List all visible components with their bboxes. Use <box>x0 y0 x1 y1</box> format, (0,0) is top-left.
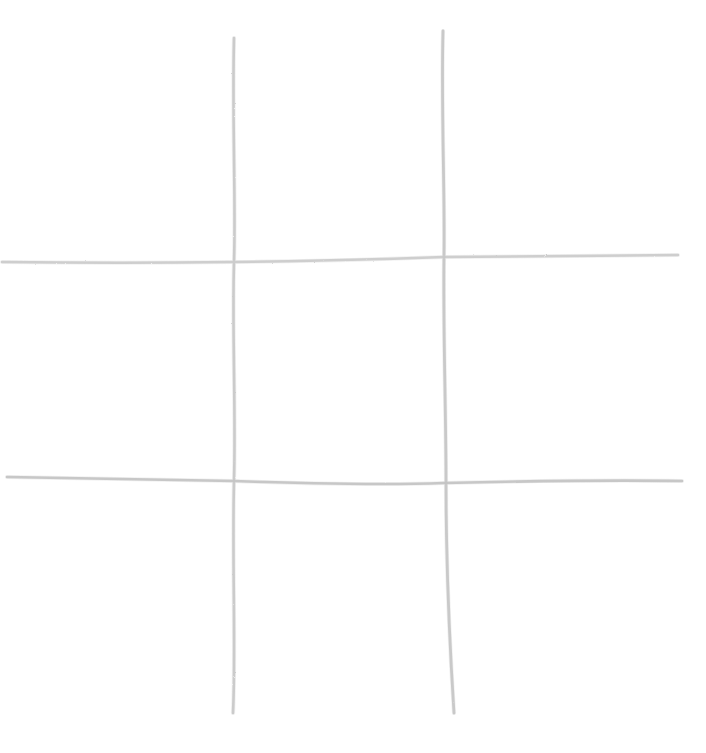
cell-middle-left[interactable] <box>0 260 234 482</box>
cell-top-center[interactable] <box>234 0 444 260</box>
cell-bottom-center[interactable] <box>234 482 444 753</box>
tic-tac-toe-board[interactable] <box>0 0 706 753</box>
cell-middle-right[interactable] <box>444 260 706 482</box>
cell-top-right[interactable] <box>444 0 706 260</box>
cell-bottom-left[interactable] <box>0 482 234 753</box>
cell-top-left[interactable] <box>0 0 234 260</box>
cell-bottom-right[interactable] <box>444 482 706 753</box>
cell-middle-center[interactable] <box>234 260 444 482</box>
